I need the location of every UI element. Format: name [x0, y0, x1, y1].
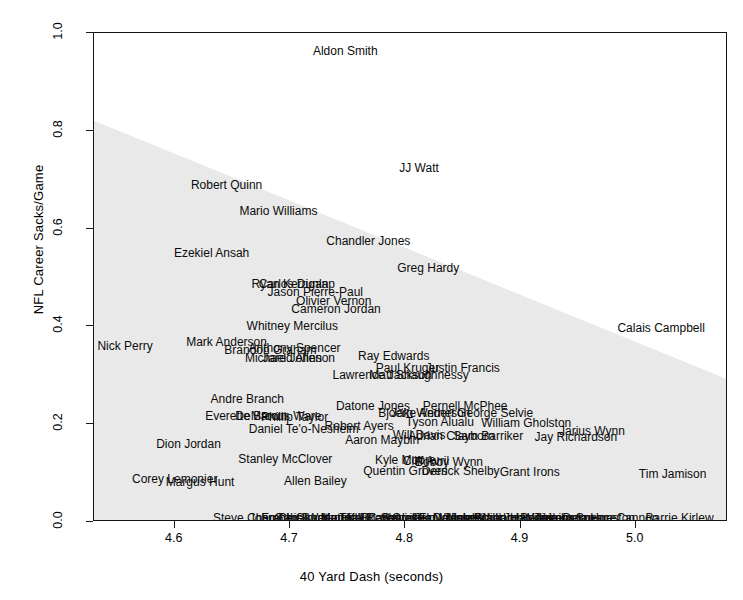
x-tick-mark	[520, 521, 521, 528]
data-point-label: Margus Hunt	[166, 476, 235, 488]
y-tick-mark	[86, 325, 93, 326]
x-tick-mark	[404, 521, 405, 528]
data-point-label: Barrie Kirlew	[646, 512, 714, 521]
data-point-label: Calais Campbell	[617, 322, 704, 334]
data-point-label: Grant Irons	[500, 466, 560, 478]
x-tick-mark	[635, 521, 636, 528]
y-tick-mark	[86, 130, 93, 131]
data-point-label: Aldon Smith	[313, 45, 378, 57]
x-tick-label: 4.6	[152, 531, 196, 545]
data-point-label: Delaware Cannon	[562, 512, 658, 521]
x-tick-label: 5.0	[613, 531, 657, 545]
data-point-label: JJ Watt	[399, 162, 439, 174]
y-tick-label: 0.8	[51, 109, 65, 149]
data-point-label: Whitney Mercilus	[247, 320, 338, 332]
data-point-label: Cameron Jordan	[291, 303, 380, 315]
plot-area: Aldon SmithJJ WattRobert QuinnMario Will…	[93, 32, 727, 521]
data-point-label: Jay Richardson	[534, 431, 617, 443]
data-point-label: Nick Perry	[97, 340, 152, 352]
data-point-label: Matt Shaughnessy	[369, 369, 468, 381]
data-point-label: Dion Jordan	[156, 438, 221, 450]
y-tick-label: 0.6	[51, 207, 65, 247]
scatter-plot-figure: NFL Career Sacks/Game 40 Yard Dash (seco…	[0, 0, 743, 600]
y-tick-label: 0.4	[51, 304, 65, 344]
y-axis-title: NFL Career Sacks/Game	[31, 110, 46, 370]
data-point-label: Chandler Jones	[326, 235, 410, 247]
x-axis-title: 40 Yard Dash (seconds)	[0, 569, 743, 584]
y-tick-mark	[86, 521, 93, 522]
data-point-label: Derrick Shelby	[422, 465, 500, 477]
x-tick-label: 4.9	[498, 531, 542, 545]
data-point-label: Daniel Te'o-Nesheim	[249, 423, 359, 435]
data-point-label: Jared Allen	[263, 352, 322, 364]
data-point-label: Andre Branch	[211, 393, 284, 405]
data-point-label: Tyson Alualu	[406, 416, 474, 428]
data-point-label: Stanley McClover	[238, 453, 332, 465]
x-tick-label: 4.8	[382, 531, 426, 545]
y-tick-label: 1.0	[51, 11, 65, 51]
y-tick-mark	[86, 228, 93, 229]
data-point-label: Sam Barriker	[453, 430, 523, 442]
x-tick-label: 4.7	[267, 531, 311, 545]
y-tick-mark	[86, 32, 93, 33]
y-tick-label: 0.0	[51, 500, 65, 540]
data-point-label: William Gholston	[481, 417, 571, 429]
data-point-label: Ezekiel Ansah	[174, 247, 249, 259]
y-tick-label: 0.2	[51, 402, 65, 442]
x-tick-mark	[174, 521, 175, 528]
y-tick-mark	[86, 423, 93, 424]
data-point-label: Tim Jamison	[639, 468, 707, 480]
data-point-label: Greg Hardy	[397, 262, 459, 274]
data-point-label: Aaron Maybin	[345, 434, 419, 446]
data-point-label: Allen Bailey	[284, 475, 347, 487]
data-point-label: Ray Edwards	[358, 350, 429, 362]
data-point-label: Robert Quinn	[191, 179, 262, 191]
x-tick-mark	[289, 521, 290, 528]
data-point-label: Mario Williams	[239, 205, 317, 217]
